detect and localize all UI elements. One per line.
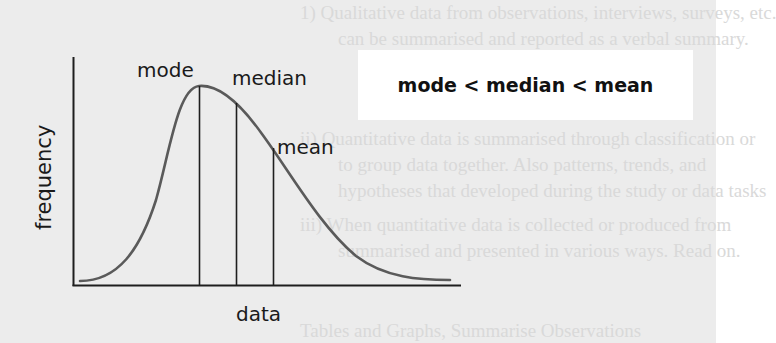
x-axis-label: data (236, 304, 281, 324)
median-label: median (232, 68, 307, 88)
callout-box: mode < median < mean (358, 50, 693, 120)
y-axis-label: frequency (34, 125, 55, 230)
mode-label: mode (137, 60, 194, 80)
mean-label: mean (277, 137, 334, 157)
callout-text: mode < median < mean (398, 74, 654, 96)
